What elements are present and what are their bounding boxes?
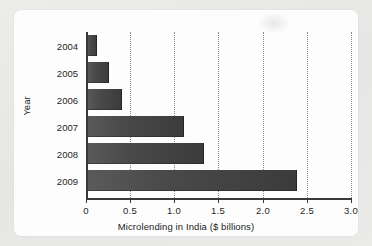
x-tick-2-0: [263, 199, 264, 203]
bar-2009: [87, 170, 297, 191]
y-axis-line: [86, 32, 88, 199]
gridline-2-5: [307, 32, 308, 198]
figure-root: Year 2004 2005 2006 2007 2008 2009: [0, 0, 372, 246]
x-tick-0-5: [130, 199, 131, 203]
x-tick-label-2-5: 2.5: [300, 205, 314, 216]
bar-2006: [87, 89, 122, 110]
bar-2005: [87, 62, 109, 83]
y-tick-label-2008: 2008: [57, 149, 78, 160]
y-axis-title: Year: [21, 96, 32, 115]
x-axis-title: Microlending in India ($ billions): [14, 221, 358, 232]
bar-2008: [87, 143, 204, 164]
chart-panel: Year 2004 2005 2006 2007 2008 2009: [14, 10, 358, 236]
bar-2007: [87, 116, 184, 137]
y-tick-label-2006: 2006: [57, 95, 78, 106]
y-tick-label-2005: 2005: [57, 68, 78, 79]
y-tick-label-2004: 2004: [57, 41, 78, 52]
x-tick-0: [86, 199, 87, 203]
x-tick-label-0: 0: [83, 205, 88, 216]
bar-2004: [87, 35, 97, 56]
x-tick-1-5: [218, 199, 219, 203]
x-axis-line: [86, 198, 352, 200]
x-tick-label-0-5: 0.5: [123, 205, 137, 216]
scan-smudge: [257, 12, 291, 34]
x-tick-label-1-0: 1.0: [167, 205, 181, 216]
x-tick-3-0: [351, 199, 352, 203]
x-tick-label-1-5: 1.5: [211, 205, 225, 216]
x-tick-1-0: [174, 199, 175, 203]
y-tick-label-2007: 2007: [57, 122, 78, 133]
y-tick-label-2009: 2009: [57, 176, 78, 187]
x-tick-label-2-0: 2.0: [256, 205, 270, 216]
gridline-3-0: [351, 32, 352, 198]
x-tick-2-5: [307, 199, 308, 203]
x-tick-label-3-0: 3.0: [344, 205, 358, 216]
